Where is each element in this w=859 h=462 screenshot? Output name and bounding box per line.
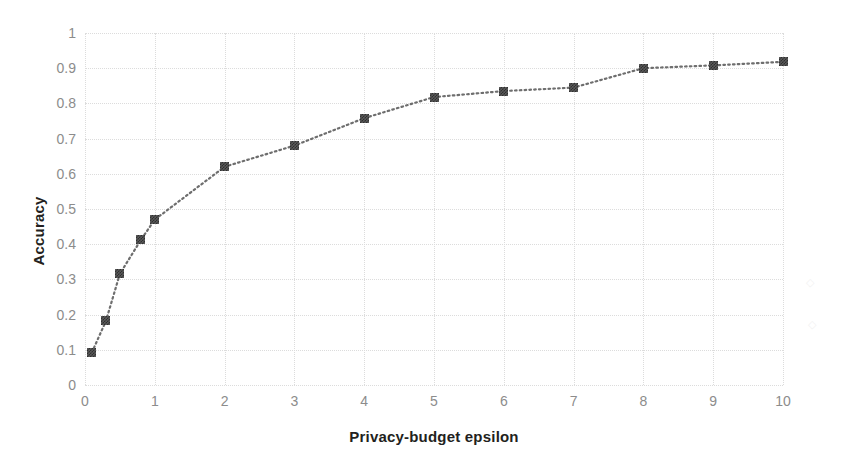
y-tick-label: 0.9: [57, 60, 76, 76]
data-point-marker: [290, 141, 299, 150]
data-point-marker: [360, 114, 369, 123]
y-tick-label: 0.5: [57, 201, 76, 217]
x-tick-label: 2: [221, 393, 229, 409]
x-tick-label: 8: [639, 393, 647, 409]
x-tick-label: 5: [430, 393, 438, 409]
data-point-marker: [220, 162, 229, 171]
scan-artifact: ◇: [808, 318, 816, 331]
x-tick-label: 9: [709, 393, 717, 409]
series-polyline: [92, 62, 783, 352]
data-point-marker: [499, 87, 508, 96]
x-tick-label: 1: [151, 393, 159, 409]
y-tick-label: 0.4: [57, 236, 76, 252]
y-tick-label: 0.7: [57, 131, 76, 147]
data-point-marker: [779, 57, 788, 66]
y-tick-label: 0.3: [57, 271, 76, 287]
x-tick-label: 10: [775, 393, 791, 409]
x-axis-title: Privacy-budget epsilon: [85, 428, 783, 445]
y-tick-label: 0.2: [57, 307, 76, 323]
y-tick-label: 1: [68, 25, 76, 41]
y-tick-label: 0.8: [57, 95, 76, 111]
y-tick-label: 0.6: [57, 166, 76, 182]
x-tick-label: 3: [290, 393, 298, 409]
scan-artifact: ◇: [806, 276, 814, 289]
data-point-marker: [709, 61, 718, 70]
series-line: [85, 33, 783, 385]
data-point-marker: [101, 316, 110, 325]
data-point-marker: [136, 235, 145, 244]
y-axis-title: Accuracy: [18, 0, 58, 462]
gridline-horizontal: [85, 385, 783, 386]
chart-figure: Accuracy Privacy-budget epsilon 00.10.20…: [0, 0, 859, 462]
plot-area: 00.10.20.30.40.50.60.70.80.91 0123456789…: [85, 33, 783, 385]
y-tick-label: 0.1: [57, 342, 76, 358]
gridline-vertical: [783, 33, 784, 385]
x-tick-label: 7: [570, 393, 578, 409]
data-point-marker: [430, 93, 439, 102]
x-tick-label: 6: [500, 393, 508, 409]
data-point-marker: [115, 269, 124, 278]
x-tick-label: 4: [360, 393, 368, 409]
y-tick-label: 0: [68, 377, 76, 393]
data-point-marker: [87, 348, 96, 357]
data-point-marker: [569, 83, 578, 92]
data-point-marker: [639, 64, 648, 73]
x-tick-label: 0: [81, 393, 89, 409]
data-point-marker: [150, 215, 159, 224]
